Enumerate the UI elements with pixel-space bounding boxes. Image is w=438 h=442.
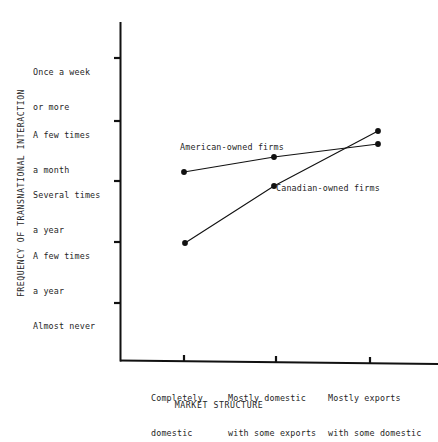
x-tick-label-line2: domestic — [151, 428, 203, 440]
series-canadian-owned-firms — [182, 128, 381, 246]
x-tick-label-line2: with some domestic — [328, 428, 421, 440]
data-point-american-mostly-exports — [375, 141, 381, 147]
data-point-canadian-mostly-domestic — [271, 183, 277, 189]
data-point-american-completely-domestic — [181, 169, 187, 175]
x-tick-label-line2: with some exports — [228, 428, 316, 440]
x-axis-line — [120, 361, 438, 365]
data-point-canadian-mostly-exports — [375, 128, 381, 134]
data-point-canadian-completely-domestic — [182, 240, 188, 246]
series-american-owned-firms — [181, 141, 381, 175]
series-line-american-owned-firms — [184, 144, 378, 172]
data-point-american-mostly-domestic — [271, 154, 277, 160]
